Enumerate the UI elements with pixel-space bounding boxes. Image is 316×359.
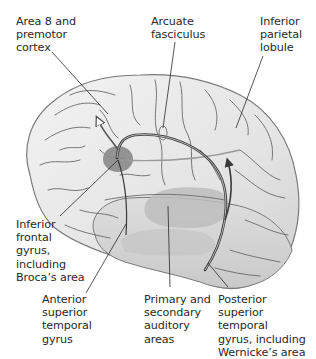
auditory-wernicke-region — [144, 187, 228, 228]
label-area-8-premotor-cortex: Area 8 and premotor cortex — [16, 15, 76, 55]
label-primary-secondary-auditory-areas: Primary and secondary auditory areas — [144, 293, 211, 346]
label-inferior-parietal-lobule: Inferior parietal lobule — [260, 15, 302, 55]
label-anterior-superior-temporal-gyrus: Anterior superior temporal gyrus — [42, 293, 92, 346]
label-inferior-frontal-gyrus-broca: Inferior frontal gyrus, including Broca’… — [16, 218, 85, 284]
label-posterior-superior-temporal-gyrus-wernicke: Posterior superior temporal gyrus, inclu… — [218, 293, 316, 359]
label-arcuate-fasciculus: Arcuate fasciculus — [151, 15, 205, 41]
